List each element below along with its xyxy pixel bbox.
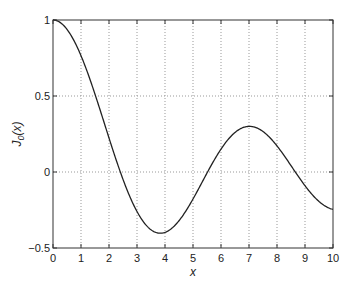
x-tick-label: 0 [50, 252, 56, 264]
x-tick-label: 8 [274, 252, 280, 264]
x-axis-ticks: 012345678910 [50, 20, 339, 264]
bessel-j0-curve [53, 20, 333, 233]
y-tick-label: 0 [44, 166, 50, 178]
y-tick-label: 0.5 [35, 90, 50, 102]
x-tick-label: 2 [106, 252, 112, 264]
x-tick-label: 6 [218, 252, 224, 264]
chart: 012345678910 10.50−0.5 x J0(x) [0, 0, 354, 288]
x-tick-label: 4 [162, 252, 168, 264]
x-tick-label: 3 [134, 252, 140, 264]
x-tick-label: 1 [78, 252, 84, 264]
x-axis-label: x [189, 265, 197, 279]
y-axis-label: J0(x) [10, 121, 26, 147]
x-tick-label: 10 [327, 252, 339, 264]
y-tick-label: −0.5 [28, 242, 50, 254]
y-tick-label: 1 [44, 14, 50, 26]
x-tick-label: 9 [302, 252, 308, 264]
x-tick-label: 5 [190, 252, 196, 264]
x-tick-label: 7 [246, 252, 252, 264]
grid-lines [53, 20, 333, 248]
